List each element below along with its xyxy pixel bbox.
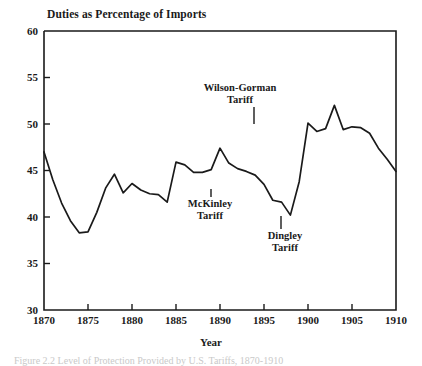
y-tick-label-60: 60 [8,26,38,36]
y-tick-label-55: 55 [8,72,38,82]
x-axis-label: Year [0,336,422,348]
annotation-wilson-gorman: Wilson-Gorman Tariff [180,82,300,106]
chart-title: Duties as Percentage of Imports [47,8,206,20]
annotation-dingley-line1: Dingley [243,230,327,242]
y-tick-label-50: 50 [8,119,38,129]
axis-frame [44,31,396,310]
y-tick-label-35: 35 [8,258,38,268]
annotation-mckinley-line2: Tariff [168,210,252,222]
annotation-wilson-gorman-line1: Wilson-Gorman [180,82,300,94]
annotation-mckinley-line1: McKinley [168,198,252,210]
y-axis-ticks [44,78,50,264]
y-tick-label-40: 40 [8,212,38,222]
x-tick-label-1910: 1910 [366,315,422,326]
figure-caption: Figure 2.2 Level of Protection Provided … [14,355,283,366]
annotation-dingley-line2: Tariff [243,242,327,254]
annotation-mckinley: McKinley Tariff [168,198,252,222]
annotation-wilson-gorman-line2: Tariff [180,94,300,106]
y-tick-label-45: 45 [8,165,38,175]
annotation-dingley: Dingley Tariff [243,230,327,254]
x-axis-ticks [88,304,352,310]
